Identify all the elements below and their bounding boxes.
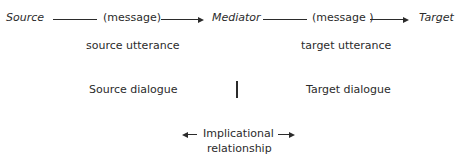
mediator-node: Mediator — [212, 11, 261, 24]
arrow-right-icon — [403, 17, 409, 23]
connector-line — [53, 19, 97, 20]
relationship-label-line2: relationship — [207, 142, 272, 155]
divider-bar — [236, 81, 238, 98]
connector-line — [370, 19, 404, 20]
message-label-1: (message) — [103, 11, 161, 24]
source-utterance-label: source utterance — [86, 39, 179, 52]
message-label-2: (message ) — [312, 11, 374, 24]
connector-line — [263, 19, 307, 20]
source-dialogue-label: Source dialogue — [89, 83, 178, 96]
connector-line — [187, 134, 197, 135]
target-utterance-label: target utterance — [301, 39, 391, 52]
arrow-right-icon — [198, 17, 204, 23]
target-node: Target — [419, 11, 454, 24]
connector-line — [161, 19, 199, 20]
relationship-label-line1: Implicational — [203, 127, 274, 140]
arrow-right-icon — [289, 132, 295, 138]
source-node: Source — [6, 11, 44, 24]
target-dialogue-label: Target dialogue — [306, 83, 391, 96]
